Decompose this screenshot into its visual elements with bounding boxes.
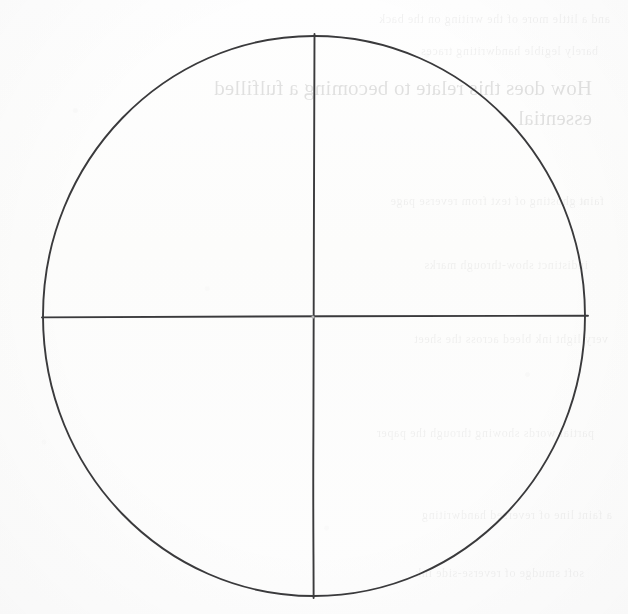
horizontal-diameter-line xyxy=(42,316,588,318)
quadrant-circle-svg xyxy=(0,0,628,614)
quadrant-circle-diagram xyxy=(0,0,628,614)
center-dot-mark xyxy=(311,315,314,318)
scanned-page: How does this relate to becoming a fulfi… xyxy=(0,0,628,614)
